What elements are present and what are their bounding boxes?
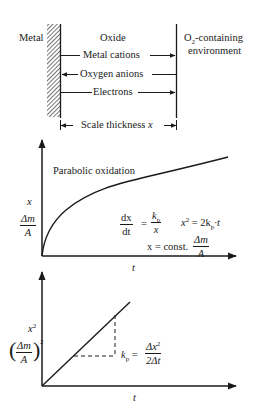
frac-num2: Δm <box>16 340 32 353</box>
const-frac: Δm A <box>193 234 209 259</box>
const-den: A <box>198 247 204 259</box>
containing-text: -containing <box>195 32 243 43</box>
kp-frac: Δx2 2Δt <box>145 341 161 366</box>
parabolic-y-label-frac: Δm A <box>20 213 36 238</box>
frac-den2: A <box>21 353 27 365</box>
environment-label-line2: environment <box>188 45 241 57</box>
parabolic-title: Parabolic oxidation <box>53 165 135 177</box>
eq-2k: = 2k <box>189 217 211 228</box>
linear-y-label-frac: Δm A <box>16 340 32 365</box>
paren-sup: 2 <box>40 336 44 348</box>
scale-thickness-var: x <box>148 119 153 130</box>
const-relation: x = const. <box>147 241 188 253</box>
linear-x2-line <box>42 302 130 386</box>
x-den: x <box>154 223 159 235</box>
oxygen-anions-label: Oxygen anions <box>80 68 143 80</box>
frac-den: A <box>25 226 31 238</box>
oxide-label: Oxide <box>100 32 126 44</box>
environment-label-line1: O2-containing <box>184 32 243 44</box>
electrons-label: Electrons <box>93 86 133 98</box>
kp-label: kp = <box>121 349 138 361</box>
scale-thickness-text: Scale thickness <box>81 119 148 130</box>
dx2: Δx <box>146 341 157 352</box>
metal-cations-label: Metal cations <box>83 49 140 61</box>
eq2: = <box>129 349 138 360</box>
rate-equals: = <box>141 218 147 230</box>
o2-o: O <box>184 32 192 43</box>
linear-chart-axes <box>42 272 236 386</box>
integrated-rate-law: x2 = 2kp·t <box>181 217 220 229</box>
rate-lhs: dx dt <box>120 212 133 237</box>
linear-x-label: t <box>133 392 136 404</box>
dt: dt <box>122 225 130 237</box>
dot-t: ·t <box>214 217 220 228</box>
2dt: 2Δt <box>146 354 160 366</box>
metal-label: Metal <box>19 32 44 44</box>
parabolic-y-label-x: x <box>27 196 32 208</box>
rate-rhs: kp x <box>151 210 161 235</box>
linear-y-label-x2: x2 <box>28 323 36 335</box>
dx: dx <box>121 212 132 223</box>
scale-thickness-label: Scale thickness x <box>81 119 153 131</box>
frac-num: Δm <box>20 213 36 226</box>
metal-hatched-block <box>47 24 60 117</box>
sq2: 2 <box>33 322 37 330</box>
sq3: 2 <box>157 340 161 348</box>
const-num: Δm <box>193 234 209 247</box>
parabolic-x-label: t <box>132 262 135 274</box>
